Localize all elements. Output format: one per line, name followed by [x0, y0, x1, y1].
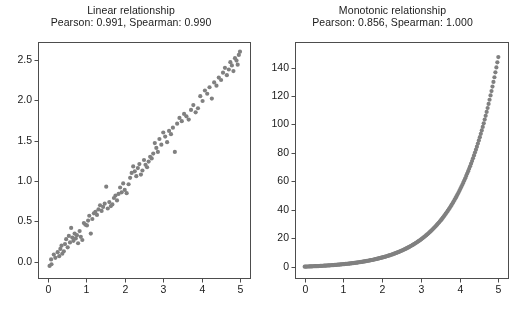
scatter-plot-monotonic: [262, 0, 523, 311]
chart-panel-linear: Linear relationship Pearson: 0.991, Spea…: [0, 0, 262, 311]
scatter-plot-linear: [0, 0, 262, 311]
chart-panel-monotonic: Monotonic relationship Pearson: 0.856, S…: [262, 0, 523, 311]
figure-root: Linear relationship Pearson: 0.991, Spea…: [0, 0, 523, 311]
